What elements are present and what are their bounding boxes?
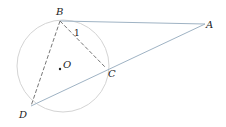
center-point-o [59, 68, 61, 70]
segment-bd [31, 21, 60, 106]
label-d: D [18, 109, 27, 120]
label-a: A [205, 19, 213, 30]
angle-label-1: 1 [74, 28, 80, 38]
diagram-canvas: B A C D O 1 [0, 0, 226, 127]
label-o: O [63, 59, 71, 70]
segment-da [31, 24, 205, 106]
label-b: B [55, 6, 63, 17]
label-c: C [108, 68, 116, 79]
geometry-diagram: B A C D O 1 [0, 0, 226, 127]
